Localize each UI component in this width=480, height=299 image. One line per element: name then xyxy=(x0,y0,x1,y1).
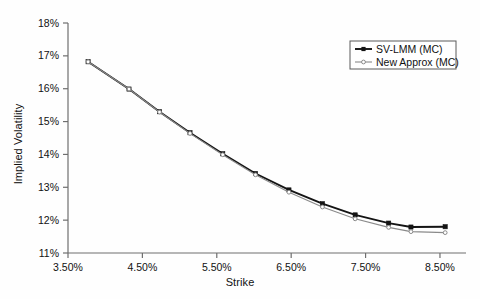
legend-entry-label: SV-LMM (MC) xyxy=(376,43,443,55)
x-tick-label: 8.50% xyxy=(425,261,455,273)
data-point-marker xyxy=(409,230,413,234)
series-line xyxy=(88,62,445,233)
y-tick-label: 16% xyxy=(38,82,59,94)
data-point-marker xyxy=(221,153,225,157)
data-point-marker xyxy=(353,217,357,221)
data-point-marker xyxy=(127,87,131,91)
x-axis-ticks: 3.50%4.50%5.50%6.50%7.50%8.50% xyxy=(53,253,455,273)
x-tick-label: 4.50% xyxy=(128,261,158,273)
data-point-marker xyxy=(321,205,325,209)
data-point-marker xyxy=(443,231,447,235)
y-tick-label: 11% xyxy=(39,247,59,259)
chart-figure: 11%12%13%14%15%16%17%18% 3.50%4.50%5.50%… xyxy=(0,0,480,299)
series-line xyxy=(88,62,445,227)
legend-marker-sample xyxy=(362,60,366,64)
x-tick-label: 7.50% xyxy=(351,261,381,273)
data-point-marker xyxy=(287,190,291,194)
x-tick-label: 6.50% xyxy=(276,261,306,273)
data-series-group xyxy=(86,60,447,235)
y-tick-label: 18% xyxy=(38,17,59,29)
y-tick-label: 14% xyxy=(38,148,59,160)
y-tick-label: 17% xyxy=(38,49,59,61)
y-tick-label: 13% xyxy=(38,181,59,193)
x-tick-label: 5.50% xyxy=(202,261,232,273)
legend-marker-sample xyxy=(361,47,365,51)
data-point-marker xyxy=(409,225,413,229)
x-axis-title: Strike xyxy=(0,276,480,288)
y-axis-title: Implied Volatility xyxy=(12,74,24,214)
data-point-marker xyxy=(387,225,391,229)
data-point-marker xyxy=(188,132,192,136)
x-tick-label: 3.50% xyxy=(53,261,83,273)
y-tick-label: 12% xyxy=(38,214,59,226)
data-point-marker xyxy=(158,110,162,114)
data-point-marker xyxy=(353,213,357,217)
y-tick-label: 15% xyxy=(38,115,59,127)
y-axis-ticks: 11%12%13%14%15%16%17%18% xyxy=(38,17,68,259)
legend-entry-label: New Approx (MC) xyxy=(376,56,459,68)
chart-legend: SV-LMM (MC)New Approx (MC) xyxy=(350,41,459,69)
chart-plot-area: 11%12%13%14%15%16%17%18% 3.50%4.50%5.50%… xyxy=(0,0,480,299)
data-point-marker xyxy=(254,173,258,177)
data-point-marker xyxy=(86,60,90,64)
data-point-marker xyxy=(387,221,391,225)
data-point-marker xyxy=(443,225,447,229)
